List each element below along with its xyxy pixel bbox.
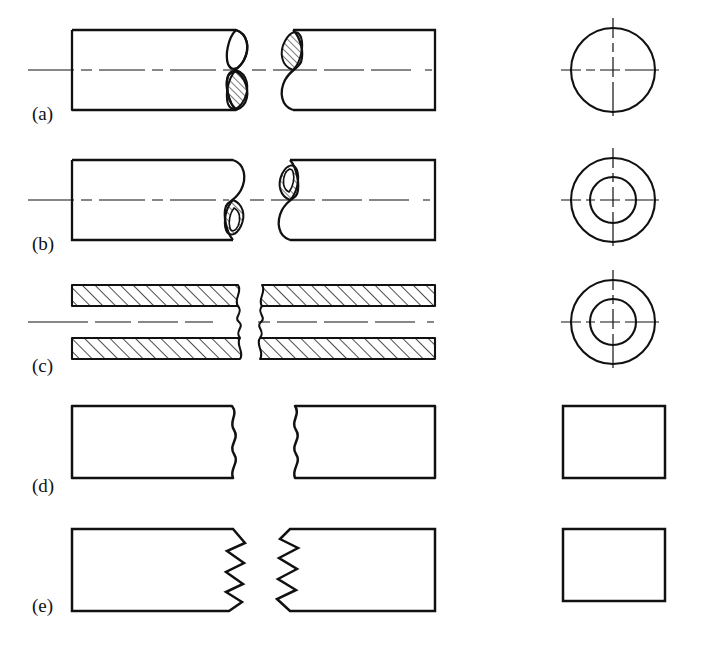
- row-label-e: (e): [32, 595, 53, 617]
- row-label-b: (b): [32, 233, 54, 255]
- row-e-rect-bar-zigzag-break: (e): [32, 529, 665, 617]
- row-c-right-break-wave: [259, 306, 263, 338]
- row-c-right-lower-wall: [259, 338, 435, 359]
- break-conventions-drawing: (a) (b): [0, 0, 705, 650]
- row-c-left-break-wave: [237, 306, 241, 338]
- row-c-sectioned-tube: (c): [28, 270, 665, 377]
- row-e-left-piece: [72, 529, 245, 611]
- row-label-c: (c): [32, 355, 53, 377]
- row-c-left-lower-wall: [72, 338, 241, 359]
- row-d-section-view: [563, 406, 665, 478]
- row-label-d: (d): [32, 475, 54, 497]
- row-c-left-upper-wall: [72, 285, 239, 306]
- row-c-right-upper-wall: [261, 285, 435, 306]
- row-a-solid-round-rod: (a): [28, 18, 665, 125]
- row-c-section-view: [561, 270, 665, 374]
- row-b-section-view: [561, 148, 665, 252]
- row-b-hollow-round-tube: (b): [28, 148, 665, 255]
- row-e-section-view: [563, 529, 665, 601]
- row-label-a: (a): [32, 103, 53, 125]
- row-d-rect-bar-wavy-break: (d): [32, 406, 665, 497]
- row-d-right-piece: [294, 406, 435, 478]
- row-a-section-view: [561, 18, 665, 122]
- row-d-left-piece: [72, 406, 236, 478]
- row-e-right-piece: [277, 529, 435, 611]
- technical-drawing-figure: (a) (b): [0, 0, 705, 650]
